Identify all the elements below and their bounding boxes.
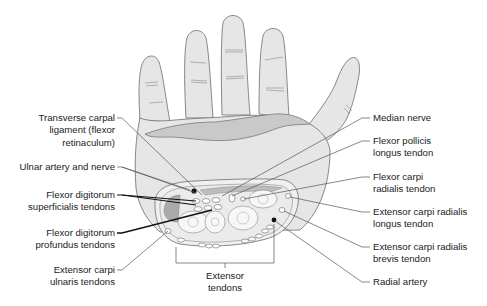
label-flexor-carpi-radialis: Flexor carpi radialis tendon [373,171,435,196]
middle-finger [221,16,250,116]
label-radial-artery: Radial artery [373,276,427,288]
label-median-nerve: Median nerve [373,112,431,124]
index-finger [259,29,289,119]
ecrb-shape [279,208,285,213]
label-flexor-digitorum-profundus: Flexor digitorum profundus tendons [36,227,115,252]
label-ulnar-artery-nerve: Ulnar artery and nerve [20,161,115,173]
label-transverse-carpal-ligament: Transverse carpal ligament (flexor retin… [39,112,115,149]
label-extensor-carpi-radialis-longus: Extensor carpi radialis longus tendon [373,206,467,231]
label-extensor-tendons: Extensor tendons [200,270,250,295]
label-extensor-carpi-radialis-brevis: Extensor carpi radialis brevis tendon [373,241,467,266]
carpal-bone-3 [228,206,258,230]
label-flexor-digitorum-superficialis: Flexor digitorum superficialis tendons [28,189,115,214]
label-flexor-pollicis-longus: Flexor pollicis longus tendon [373,135,433,160]
carpal-bone-4 [249,190,277,208]
wrist-cross-section [155,179,299,248]
label-extensor-carpi-ulnaris: Extensor carpi ulnaris tendons [50,264,115,289]
ecrl-shape [286,194,291,199]
little-finger [139,56,170,122]
carpal-bone-2 [205,211,225,233]
ring-finger [185,31,213,119]
